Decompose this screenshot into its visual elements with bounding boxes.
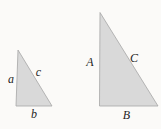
small-triangle-side-c-label: c bbox=[36, 65, 42, 79]
small-triangle-side-b-label: b bbox=[31, 107, 37, 121]
small-triangle bbox=[16, 50, 52, 106]
large-triangle-side-B-label: B bbox=[123, 108, 131, 122]
small-triangle-side-a-label: a bbox=[8, 72, 14, 86]
similar-triangles-figure: a c b A C B bbox=[0, 0, 161, 129]
geometry-diagram: a c b A C B bbox=[0, 0, 161, 129]
large-triangle-side-C-label: C bbox=[130, 51, 139, 65]
large-triangle-side-A-label: A bbox=[85, 55, 94, 69]
large-triangle bbox=[100, 13, 159, 107]
